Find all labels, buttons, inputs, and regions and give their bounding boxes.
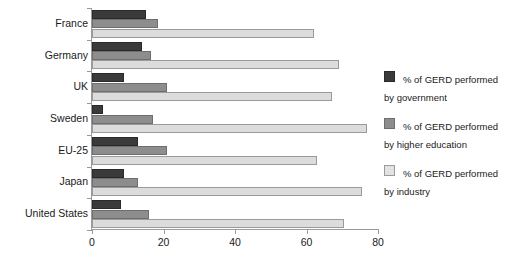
legend-swatch-ind — [384, 165, 395, 176]
category-label: United States — [0, 208, 88, 219]
y-axis-tick — [87, 40, 92, 41]
category-label: France — [0, 18, 88, 29]
bar-ind — [92, 92, 332, 101]
bar-he — [92, 83, 167, 92]
bar-gov — [92, 105, 103, 114]
legend-label: % of GERD performed by higher education — [384, 121, 498, 150]
legend-label: % of GERD performed by government — [384, 74, 498, 103]
category-label: UK — [0, 81, 88, 92]
plot-area: FranceGermanyUKSwedenEU-25JapanUnited St… — [0, 0, 400, 259]
bar-gov — [92, 200, 121, 209]
x-axis-tick-label: 40 — [229, 236, 241, 248]
y-axis-tick — [87, 135, 92, 136]
x-axis-tick-label: 20 — [158, 236, 170, 248]
bar-ind — [92, 156, 317, 165]
legend-entry[interactable]: % of GERD performed by government — [384, 69, 527, 105]
bar-he — [92, 51, 151, 60]
x-axis-tick-label: 60 — [301, 236, 313, 248]
y-axis-tick — [87, 230, 92, 231]
bar-he — [92, 19, 158, 28]
y-axis-tick — [87, 198, 92, 199]
legend-swatch-he — [384, 118, 395, 129]
bar-gov — [92, 137, 138, 146]
y-axis-tick — [87, 8, 92, 9]
bar-ind — [92, 124, 367, 133]
category-label: Sweden — [0, 113, 88, 124]
bar-gov — [92, 73, 124, 82]
bar-he — [92, 115, 153, 124]
legend-entry[interactable]: % of GERD performed by higher education — [384, 116, 527, 152]
bar-gov — [92, 42, 142, 51]
category-label: EU-25 — [0, 145, 88, 156]
gerd-bar-chart: FranceGermanyUKSwedenEU-25JapanUnited St… — [0, 0, 527, 259]
y-axis-category-labels: FranceGermanyUKSwedenEU-25JapanUnited St… — [0, 8, 88, 230]
category-label: Japan — [0, 176, 88, 187]
x-axis-tick — [378, 230, 379, 234]
bars-layer — [92, 8, 392, 230]
bar-he — [92, 178, 138, 187]
legend-entry[interactable]: % of GERD performed by industry — [384, 163, 527, 199]
bar-ind — [92, 187, 362, 196]
y-axis-tick — [87, 167, 92, 168]
x-axis-tick-label: 0 — [89, 236, 95, 248]
bar-gov — [92, 169, 124, 178]
x-axis-tick-label: 80 — [372, 236, 384, 248]
y-axis-tick — [87, 71, 92, 72]
legend-swatch-gov — [384, 71, 395, 82]
legend-label: % of GERD performed by industry — [384, 168, 498, 197]
x-axis-tick — [235, 230, 236, 234]
bar-he — [92, 210, 149, 219]
y-axis-tick — [87, 103, 92, 104]
category-label: Germany — [0, 50, 88, 61]
bar-ind — [92, 219, 344, 228]
chart-legend: % of GERD performed by government% of GE… — [384, 69, 527, 210]
x-axis-tick — [307, 230, 308, 234]
bar-he — [92, 146, 167, 155]
bar-ind — [92, 29, 314, 38]
bar-gov — [92, 10, 146, 19]
x-axis-tick — [92, 230, 93, 234]
x-axis-tick — [164, 230, 165, 234]
bar-ind — [92, 60, 339, 69]
